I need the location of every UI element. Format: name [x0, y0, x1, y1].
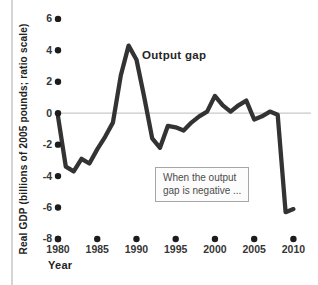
annotation-line-2: gap is negative ...	[163, 185, 241, 196]
y-tick-label: 4	[18, 44, 52, 56]
x-tick-label: 2005	[236, 243, 272, 255]
y-axis-dot	[55, 141, 61, 147]
y-axis-dot	[55, 47, 61, 53]
y-axis-dot	[55, 110, 61, 116]
x-axis-dot	[173, 236, 179, 242]
output-gap-figure: Real GDP (billions of 2005 pounds; ratio…	[0, 0, 318, 285]
x-axis-dot	[212, 236, 218, 242]
x-tick-label: 1985	[79, 243, 115, 255]
x-axis-dot	[251, 236, 257, 242]
y-axis-dot	[55, 79, 61, 85]
x-tick-label: 2010	[275, 243, 311, 255]
y-tick-label: -6	[18, 201, 52, 213]
x-tick-label: 1990	[118, 243, 154, 255]
y-tick-label: 0	[18, 107, 52, 119]
y-axis-dot	[55, 173, 61, 179]
y-tick-label: 2	[18, 75, 52, 87]
x-axis-dot	[133, 236, 139, 242]
x-tick-label: 2000	[197, 243, 233, 255]
x-tick-label: 1995	[158, 243, 194, 255]
x-axis-dot	[94, 236, 100, 242]
x-axis-dot	[55, 236, 61, 242]
annotation-box: When the output gap is negative ...	[155, 167, 249, 202]
x-tick-label: 1980	[40, 243, 76, 255]
y-axis-dot	[55, 16, 61, 22]
x-axis-title: Year	[48, 259, 72, 271]
y-tick-label: 6	[18, 12, 52, 24]
annotation-line-1: When the output	[163, 172, 236, 183]
y-tick-label: -4	[18, 170, 52, 182]
series-label: Output gap	[142, 49, 206, 61]
y-axis-dot	[55, 204, 61, 210]
x-axis-dot	[290, 236, 296, 242]
y-tick-label: -2	[18, 138, 52, 150]
